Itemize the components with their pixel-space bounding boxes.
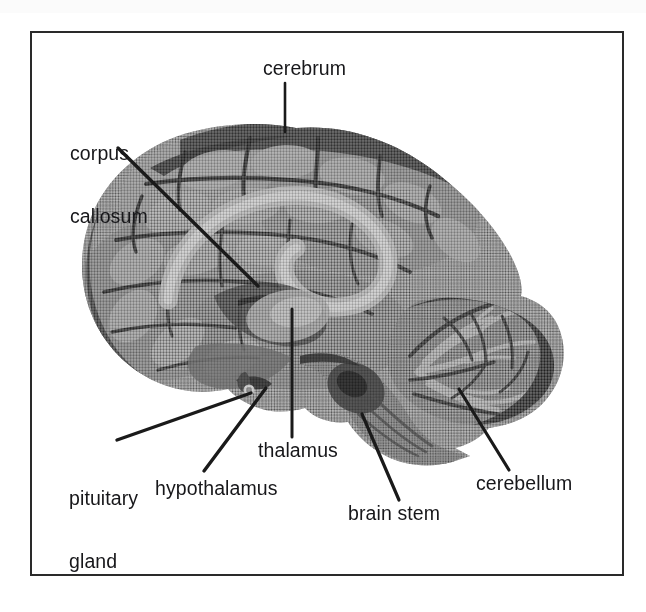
- label-hypothalamus: hypothalamus: [155, 478, 278, 499]
- label-corpus-callosum-line2: callosum: [70, 206, 148, 227]
- label-cerebrum: cerebrum: [263, 58, 346, 79]
- label-corpus-callosum-line1: corpus: [70, 143, 148, 164]
- label-brain-stem: brain stem: [348, 503, 440, 524]
- label-corpus-callosum: corpus callosum: [70, 101, 148, 248]
- label-cerebellum: cerebellum: [476, 473, 572, 494]
- label-thalamus: thalamus: [258, 440, 338, 461]
- label-pituitary-gland: pituitary gland: [69, 446, 138, 593]
- label-pituitary-gland-line2: gland: [69, 551, 138, 572]
- leader-line-hypothalamus: [204, 388, 266, 471]
- label-pituitary-gland-line1: pituitary: [69, 488, 138, 509]
